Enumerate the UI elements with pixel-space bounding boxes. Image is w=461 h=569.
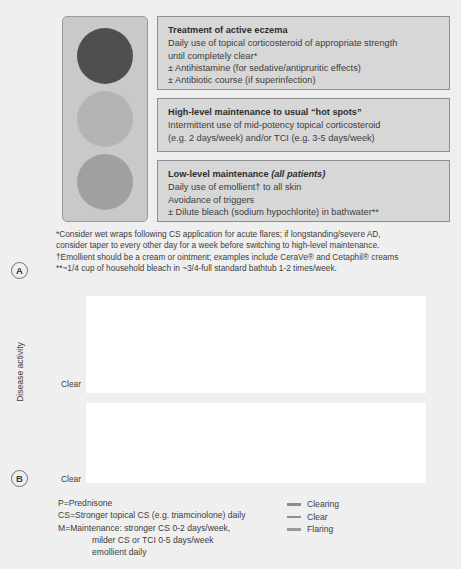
yellow-light — [77, 91, 133, 147]
y-tick-label-clear-bottom: Clear — [47, 474, 81, 484]
box-line: Daily use of emollient† to all skin — [168, 181, 440, 193]
legend-item-flaring: Flaring — [287, 523, 339, 536]
box-line: (e.g. 2 days/week) and/or TCI (e.g. 3-5 … — [168, 132, 440, 144]
footnote: consider taper to every other day for a … — [56, 240, 456, 251]
panel-a-treatment-algorithm: Treatment of active eczema Daily use of … — [0, 0, 461, 285]
treatment-box-active-eczema: Treatment of active eczema Daily use of … — [157, 16, 450, 90]
traffic-light-graphic — [62, 16, 148, 222]
legend-swatch-clearing — [287, 503, 301, 506]
chart-plot-area — [86, 296, 426, 393]
box-line: Intermittent use of mid-potency topical … — [168, 119, 440, 131]
treatment-box-high-level-maintenance: High-level maintenance to usual “hot spo… — [157, 98, 450, 152]
footnote: †Emollient should be a cream or ointment… — [56, 252, 456, 263]
box-line: until completely clear* — [168, 50, 440, 62]
box-title-high: High-level maintenance to usual “hot spo… — [168, 106, 440, 119]
legend-label: Flaring — [307, 524, 333, 534]
chart-plot-area — [86, 403, 426, 483]
key-line-p: P=Prednisone — [58, 497, 268, 509]
key-line-m-cont-1: milder CS or TCI 0-5 days/week — [58, 534, 268, 546]
legend-swatch-clear — [287, 516, 301, 519]
panel-marker-a: A — [11, 262, 28, 279]
legend-item-clearing: Clearing — [287, 498, 339, 511]
box-line: ± Antibiotic course (if superinfection) — [168, 74, 440, 86]
legend-swatch-flaring — [287, 528, 301, 531]
chart-untreated-relapsing-course: P P P — [86, 296, 426, 393]
abbreviation-key: P=Prednisone CS=Stronger topical CS (e.g… — [58, 497, 268, 558]
chart-treated-maintained-course: CS M CS M CS — [86, 403, 426, 483]
footnotes-block: *Consider wet wraps following CS applica… — [56, 229, 456, 274]
chart-legend: Clearing Clear Flaring — [287, 498, 339, 536]
box-line: Avoidance of triggers — [168, 194, 440, 206]
y-axis-label: Disease activity — [15, 327, 25, 417]
legend-label: Clear — [307, 512, 328, 522]
y-tick-label-clear-top: Clear — [47, 379, 81, 389]
box-title-low-text: Low-level maintenance — [168, 169, 271, 179]
box-title-low-italic: (all patients) — [271, 169, 325, 179]
treatment-box-low-level-maintenance: Low-level maintenance (all patients) Dai… — [157, 160, 450, 222]
box-line: ± Dilute bleach (sodium hypochlorite) in… — [168, 206, 440, 218]
box-line: Daily use of topical corticosteroid of a… — [168, 37, 440, 49]
footnote: *Consider wet wraps following CS applica… — [56, 229, 456, 240]
footnote: **~1/4 cup of household bleach in ~3/4-f… — [56, 263, 456, 274]
key-line-cs: CS=Stronger topical CS (e.g. triamcinolo… — [58, 509, 268, 521]
box-line: ± Antihistamine (for sedative/antiprurit… — [168, 62, 440, 74]
key-line-m: M=Maintenance: stronger CS 0-2 days/week… — [58, 522, 268, 534]
green-light — [77, 154, 133, 210]
box-title-active: Treatment of active eczema — [168, 24, 440, 37]
box-title-low: Low-level maintenance (all patients) — [168, 168, 440, 181]
legend-label: Clearing — [307, 499, 339, 509]
red-light — [77, 28, 133, 84]
key-line-m-cont-2: emollient daily — [58, 546, 268, 558]
legend-item-clear: Clear — [287, 511, 339, 524]
